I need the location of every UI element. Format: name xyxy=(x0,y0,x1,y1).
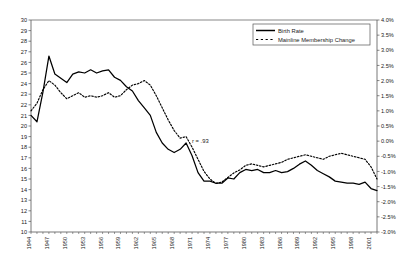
y-left-tick-label: 23 xyxy=(21,91,27,97)
y-right-tick-label: 4.0% xyxy=(381,17,394,23)
annotations-layer: r = .93 xyxy=(192,138,209,144)
y-right-tick-label: 3.5% xyxy=(381,32,394,38)
plot-background xyxy=(31,20,377,232)
y-left-tick-label: 22 xyxy=(21,102,27,108)
y-left-tick-label: 18 xyxy=(21,144,27,150)
x-tick-label: 1977 xyxy=(223,237,229,249)
y-right-tick-label: -2.0% xyxy=(381,199,396,205)
x-tick-label: 1974 xyxy=(205,237,211,249)
y-right-tick-label: 1.5% xyxy=(381,93,394,99)
x-tick-label: 1995 xyxy=(330,237,336,249)
y-left-tick-label: 24 xyxy=(21,81,27,87)
x-tick-label: 1992 xyxy=(312,237,318,249)
y-left-tick-label: 11 xyxy=(21,219,27,225)
y-left-tick-label: 30 xyxy=(21,17,27,23)
correlation-annotation: r = .93 xyxy=(192,138,209,144)
y-right-tick-label: -3.0% xyxy=(381,229,396,235)
x-tick-label: 1986 xyxy=(277,237,283,249)
x-tick-label: 1980 xyxy=(241,237,247,249)
x-tick-label: 1968 xyxy=(169,237,175,249)
y-right-tick-label: -2.5% xyxy=(381,214,396,220)
x-tick-label: 1950 xyxy=(62,237,68,249)
y-right-tick-label: 2.0% xyxy=(381,78,394,84)
y-left-tick-label: 20 xyxy=(21,123,27,129)
x-tick-label: 1944 xyxy=(26,237,32,249)
x-tick-label: 1947 xyxy=(44,237,50,249)
y-left-tick-label: 29 xyxy=(21,28,27,34)
y-left-tick-label: 19 xyxy=(21,134,27,140)
birth-rate-membership-chart: 1011121314151617181920212223242526272829… xyxy=(0,0,410,279)
y-right-tick-label: 1.0% xyxy=(381,108,394,114)
chart-legend: Birth RateMainline Membership Change xyxy=(253,24,370,45)
y-right-tick-label: 2.5% xyxy=(381,63,394,69)
y-left-tick-label: 16 xyxy=(21,166,27,172)
legend-label-2: Mainline Membership Change xyxy=(278,37,355,43)
y-left-tick-label: 27 xyxy=(21,49,27,55)
x-tick-label: 1962 xyxy=(133,237,139,249)
y-left-tick-label: 13 xyxy=(21,197,27,203)
x-tick-label: 1983 xyxy=(259,237,265,249)
y-left-tick-label: 26 xyxy=(21,60,27,66)
y-right-tick-label: 0.0% xyxy=(381,138,394,144)
y-left-tick-label: 15 xyxy=(21,176,27,182)
x-tick-label: 1965 xyxy=(151,237,157,249)
y-right-tick-label: -1.5% xyxy=(381,184,396,190)
x-tick-label: 1953 xyxy=(80,237,86,249)
y-right-tick-label: 0.5% xyxy=(381,123,394,129)
y-left-tick-label: 12 xyxy=(21,208,27,214)
y-left-tick-label: 28 xyxy=(21,38,27,44)
legend-label-1: Birth Rate xyxy=(278,28,304,34)
y-right-tick-label: -0.5% xyxy=(381,153,396,159)
x-tick-label: 1971 xyxy=(187,237,193,249)
x-tick-label: 1989 xyxy=(294,237,300,249)
y-left-tick-label: 21 xyxy=(21,113,27,119)
y-right-tick-label: 3.0% xyxy=(381,47,394,53)
y-left-tick-label: 14 xyxy=(21,187,27,193)
y-left-tick-label: 10 xyxy=(21,229,27,235)
x-tick-label: 1998 xyxy=(348,237,354,249)
x-tick-label: 1959 xyxy=(115,237,121,249)
y-right-tick-label: -1.0% xyxy=(381,169,396,175)
x-tick-label: 1956 xyxy=(98,237,104,249)
chart-canvas: 1011121314151617181920212223242526272829… xyxy=(0,0,410,279)
x-tick-label: 2001 xyxy=(366,237,372,249)
y-left-tick-label: 25 xyxy=(21,70,27,76)
y-left-tick-label: 17 xyxy=(21,155,27,161)
